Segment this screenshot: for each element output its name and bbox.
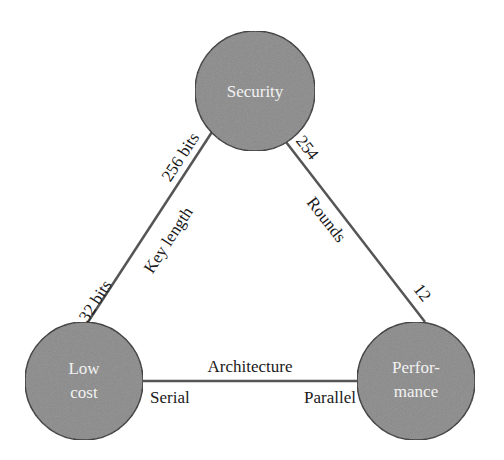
performance-node-label-line2: mance — [394, 382, 438, 401]
performance-node: Perfor- mance — [357, 322, 475, 440]
architecture-title-label: Architecture — [208, 357, 293, 376]
low-cost-node: Low cost — [25, 322, 143, 440]
key-length-title-label: Key length — [140, 203, 197, 277]
security-node: Security — [195, 31, 315, 151]
rounds-high-label: 254 — [292, 132, 323, 164]
security-node-label: Security — [227, 82, 284, 101]
rounds-edge — [286, 142, 425, 322]
key-length-low-label: 32 bits — [75, 277, 116, 326]
tradeoff-diagram: Security Low cost Perfor- mance 32 bits … — [0, 0, 504, 460]
low-cost-node-label-line2: cost — [70, 383, 98, 402]
low-cost-node-label-line1: Low — [68, 359, 100, 378]
rounds-low-label: 12 — [410, 280, 435, 305]
performance-node-label-line1: Perfor- — [392, 358, 440, 377]
architecture-serial-label: Serial — [150, 388, 190, 407]
architecture-parallel-label: Parallel — [304, 388, 356, 407]
rounds-title-label: Rounds — [303, 193, 350, 246]
